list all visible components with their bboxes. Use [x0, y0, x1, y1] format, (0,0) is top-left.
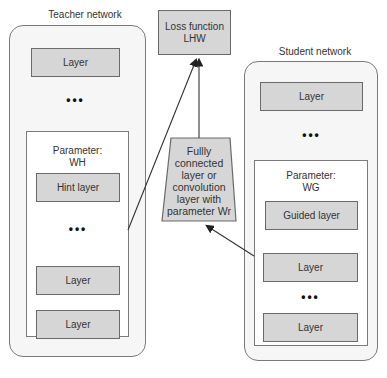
- regressor-line: Fullly: [160, 145, 238, 157]
- regressor-line: convolution: [160, 181, 238, 193]
- regressor-line: connected: [160, 157, 238, 169]
- regressor-line: layer or: [160, 169, 238, 181]
- regressor-line: layer with: [160, 193, 238, 205]
- regressor-label: Fullly connected layer or convolution la…: [160, 145, 238, 217]
- regressor-line: parameter Wr: [160, 205, 238, 217]
